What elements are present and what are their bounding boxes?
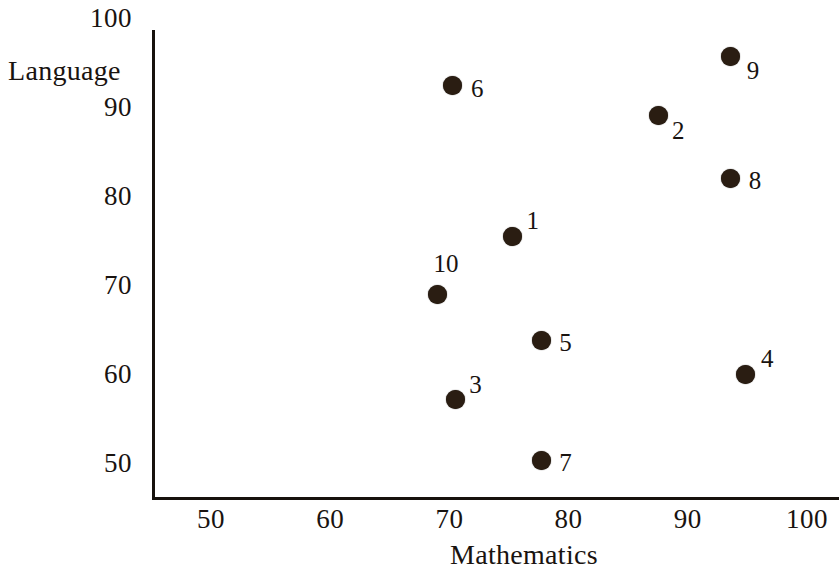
data-point-7[interactable] xyxy=(532,451,551,470)
x-tick-label-50: 50 xyxy=(197,506,225,533)
data-point-8[interactable] xyxy=(721,169,740,188)
x-axis-title: Mathematics xyxy=(450,541,598,569)
y-tick-label-60: 60 xyxy=(60,361,132,388)
scatter-plot: Language Mathematics 1009080706050506070… xyxy=(0,0,839,575)
y-tick-label-50: 50 xyxy=(60,450,132,477)
y-axis-line xyxy=(152,30,155,500)
data-point-label-3: 3 xyxy=(469,371,482,396)
y-tick-label-100: 100 xyxy=(60,5,132,32)
data-point-3[interactable] xyxy=(446,390,465,409)
data-point-label-8: 8 xyxy=(749,168,762,193)
x-tick-label-60: 60 xyxy=(316,506,344,533)
x-tick-label-100: 100 xyxy=(786,506,828,533)
data-point-5[interactable] xyxy=(532,331,551,350)
data-point-label-7: 7 xyxy=(559,450,572,475)
x-tick-label-80: 80 xyxy=(555,506,583,533)
data-point-label-2: 2 xyxy=(672,117,685,142)
x-axis-line xyxy=(152,497,839,500)
data-point-label-4: 4 xyxy=(761,346,774,371)
data-point-6[interactable] xyxy=(443,76,462,95)
data-point-10[interactable] xyxy=(428,285,447,304)
y-tick-label-70: 70 xyxy=(60,272,132,299)
y-tick-label-80: 80 xyxy=(60,183,132,210)
data-point-2[interactable] xyxy=(649,106,668,125)
data-point-label-6: 6 xyxy=(471,75,484,100)
y-tick-label-90: 90 xyxy=(60,94,132,121)
data-point-label-1: 1 xyxy=(527,208,540,233)
data-point-9[interactable] xyxy=(721,47,740,66)
x-tick-label-70: 70 xyxy=(435,506,463,533)
data-point-1[interactable] xyxy=(503,227,522,246)
x-tick-label-90: 90 xyxy=(674,506,702,533)
data-point-label-5: 5 xyxy=(559,330,572,355)
y-axis-title: Language xyxy=(8,57,121,85)
data-point-4[interactable] xyxy=(736,365,755,384)
data-point-label-9: 9 xyxy=(747,58,760,83)
data-point-label-10: 10 xyxy=(433,250,458,275)
